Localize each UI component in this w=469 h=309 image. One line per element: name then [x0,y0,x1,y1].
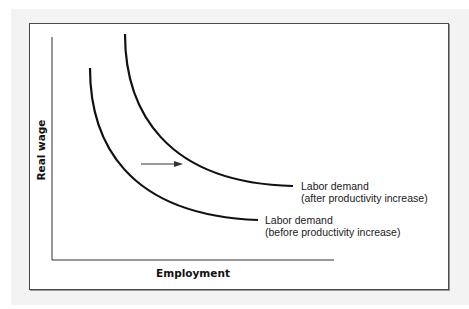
before-curve-label-line2: (before productivity increase) [265,226,400,238]
shift-arrow-head-icon [174,161,183,167]
after-curve-label: Labor demand (after productivity increas… [301,180,428,204]
labor-demand-after-curve [125,34,293,186]
after-curve-label-line2: (after productivity increase) [301,192,428,204]
y-axis-label: Real wage [35,120,47,181]
labor-demand-diagram [0,0,469,309]
before-curve-label: Labor demand (before productivity increa… [265,214,400,238]
before-curve-label-line1: Labor demand [265,214,400,226]
labor-demand-before-curve [90,68,258,220]
x-axis-label: Employment [156,267,230,279]
after-curve-label-line1: Labor demand [301,180,428,192]
